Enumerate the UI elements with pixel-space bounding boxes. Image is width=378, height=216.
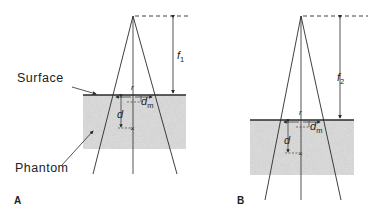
- surface-label: Surface: [17, 72, 64, 85]
- panel-b-letter: B: [237, 196, 244, 206]
- depth-label-a: d: [117, 109, 123, 120]
- f1-label: f1: [177, 50, 184, 64]
- f2-label: f2: [337, 72, 344, 86]
- f2-label-subscript: 2: [340, 77, 344, 86]
- field-r-label-a: r: [131, 84, 134, 92]
- panel-a-letter: A: [14, 196, 21, 206]
- field-r-label-b: r: [299, 109, 302, 117]
- dmax-label-a-subscript: m: [147, 101, 153, 110]
- surface-pointer-arrow: [72, 87, 96, 94]
- dmax-label-b-subscript: m: [316, 126, 322, 135]
- diagram-canvas: × ×: [0, 0, 378, 216]
- panel-b: ×: [250, 16, 368, 200]
- dmax-label-b: dm: [310, 121, 322, 135]
- measurement-point-b: ×: [298, 149, 303, 158]
- dmax-label-a: dm: [141, 96, 153, 110]
- f1-label-subscript: 1: [180, 55, 184, 64]
- phantom-label: Phantom: [15, 162, 69, 175]
- panel-a: ×: [62, 16, 188, 174]
- measurement-point-a: ×: [130, 124, 135, 133]
- depth-label-b: d: [284, 135, 290, 146]
